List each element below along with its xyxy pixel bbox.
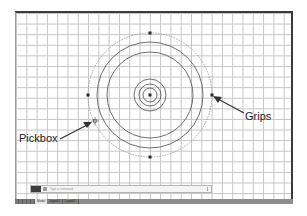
layout-tab-bar: Model Layout1 Layout2 xyxy=(15,199,293,204)
pickbox-callout-label: Pickbox xyxy=(19,132,58,144)
command-line-grip-handle[interactable] xyxy=(31,186,41,192)
command-line[interactable]: Type a command xyxy=(30,185,212,193)
command-prompt-icon[interactable] xyxy=(43,187,47,191)
grips-arrow-icon xyxy=(213,96,244,113)
grip-left[interactable] xyxy=(87,94,90,97)
tab-model[interactable]: Model xyxy=(35,199,47,204)
grips-callout-label: Grips xyxy=(245,110,271,122)
grip-bottom[interactable] xyxy=(149,156,152,159)
tab-layout1[interactable]: Layout1 xyxy=(47,199,63,204)
tab-layout2[interactable]: Layout2 xyxy=(63,199,79,204)
drawing-objects[interactable] xyxy=(0,0,307,216)
command-input[interactable]: Type a command xyxy=(50,187,73,191)
grip-top[interactable] xyxy=(149,32,152,35)
command-line-end xyxy=(207,187,211,191)
grip-center[interactable] xyxy=(149,94,152,97)
pickbox-arrow-icon xyxy=(60,122,92,139)
